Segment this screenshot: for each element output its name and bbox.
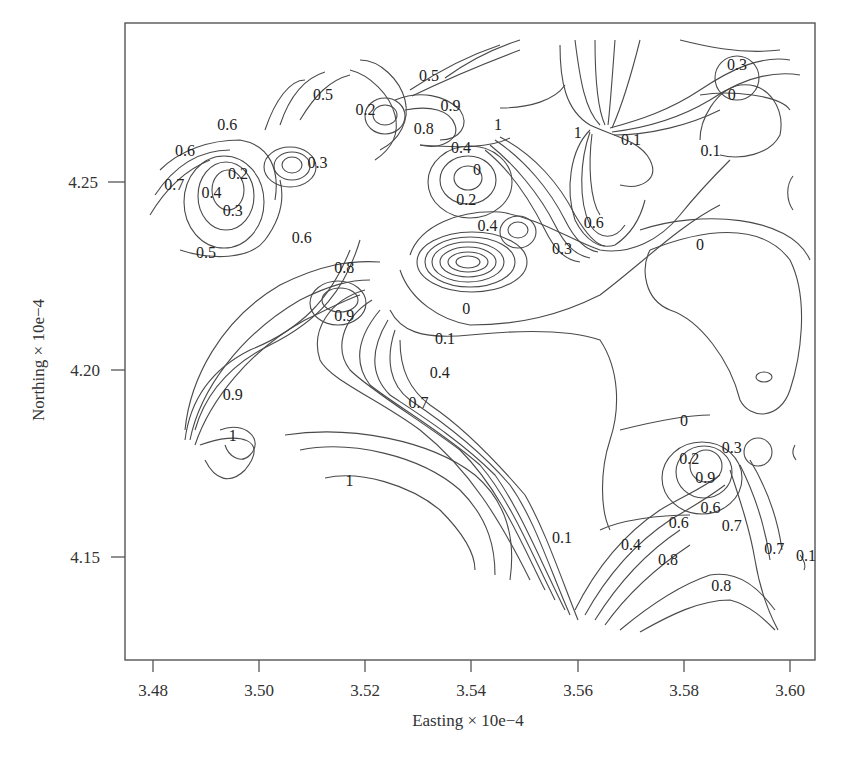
contour-label: 0.8 xyxy=(414,120,434,137)
x-tick-label: 3.50 xyxy=(244,681,274,700)
x-tick-label: 3.48 xyxy=(138,681,168,700)
contour-label: 0.7 xyxy=(722,517,742,534)
contour-label: 0 xyxy=(728,86,736,103)
x-axis xyxy=(153,660,790,672)
contour-label: 0.1 xyxy=(701,142,721,159)
contour-chart: 3.48 3.50 3.52 3.54 3.56 3.58 3.60 Easti… xyxy=(0,0,860,758)
x-tick-labels: 3.48 3.50 3.52 3.54 3.56 3.58 3.60 xyxy=(138,681,805,700)
contour-label: 1 xyxy=(346,472,354,489)
contour-label: 0.4 xyxy=(451,139,471,156)
y-tick-label: 4.15 xyxy=(70,548,100,567)
contour-label: 0.2 xyxy=(456,191,476,208)
contour-label: 0.7 xyxy=(409,394,429,411)
contour-label: 0.7 xyxy=(164,176,184,193)
y-tick-labels: 4.15 4.20 4.25 xyxy=(68,173,100,567)
contour-label: 1 xyxy=(574,124,582,141)
contour-label: 0.4 xyxy=(621,536,641,553)
contour-label: 0.2 xyxy=(679,450,699,467)
contour-label: 0.5 xyxy=(419,67,439,84)
contour-label: 0 xyxy=(473,161,481,178)
x-tick-label: 3.56 xyxy=(563,681,593,700)
contour-label: 1 xyxy=(494,116,502,133)
contour-label: 0.4 xyxy=(201,184,221,201)
y-tick-label: 4.25 xyxy=(68,173,98,192)
contour-label: 0.8 xyxy=(334,259,354,276)
contour-label: 0.9 xyxy=(334,307,354,324)
contour-label: 0.6 xyxy=(292,229,312,246)
contour-label: 0.9 xyxy=(440,97,460,114)
contour-label: 0.9 xyxy=(695,469,715,486)
contour-label: 0.3 xyxy=(308,154,328,171)
contour-label: 0.1 xyxy=(621,131,641,148)
x-tick-label: 3.58 xyxy=(669,681,699,700)
y-tick-label: 4.20 xyxy=(70,361,100,380)
contour-label: 0.6 xyxy=(584,214,604,231)
contour-label: 0.1 xyxy=(796,547,816,564)
contour-label: 0.4 xyxy=(430,364,450,381)
contour-label: 0.6 xyxy=(669,514,689,531)
contour-label: 0.2 xyxy=(355,101,375,118)
contour-label: 0.1 xyxy=(552,529,572,546)
x-axis-title: Easting × 10e−4 xyxy=(412,711,524,730)
x-tick-label: 3.52 xyxy=(350,681,380,700)
contour-lines xyxy=(150,40,810,632)
contour-label: 0.3 xyxy=(223,202,243,219)
contour-label: 0.4 xyxy=(478,217,498,234)
contour-label: 0.3 xyxy=(722,439,742,456)
contour-label: 0 xyxy=(696,236,704,253)
y-axis xyxy=(108,182,125,557)
contour-label: 1 xyxy=(229,427,237,444)
y-axis-title: Northing × 10e−4 xyxy=(29,298,48,421)
contour-label: 0.6 xyxy=(701,499,721,516)
x-tick-label: 3.60 xyxy=(775,681,805,700)
contour-label: 0.5 xyxy=(313,86,333,103)
contour-label: 0.3 xyxy=(727,56,747,73)
contour-label: 0.6 xyxy=(217,116,237,133)
contour-label: 0.2 xyxy=(228,165,248,182)
contour-label: 0.8 xyxy=(711,577,731,594)
contour-label: 0 xyxy=(680,412,688,429)
contour-label: 0.1 xyxy=(435,330,455,347)
contour-label: 0 xyxy=(462,300,470,317)
contour-labels: 0.50.50.20.90.810.410.10.300.10.60.60.30… xyxy=(164,56,816,594)
contour-label: 0.7 xyxy=(764,540,784,557)
contour-label: 0.6 xyxy=(175,142,195,159)
x-tick-label: 3.54 xyxy=(456,681,486,700)
contour-label: 0.5 xyxy=(196,244,216,261)
contour-label: 0.9 xyxy=(223,386,243,403)
contour-label: 0.8 xyxy=(658,551,678,568)
contour-label: 0.3 xyxy=(552,240,572,257)
